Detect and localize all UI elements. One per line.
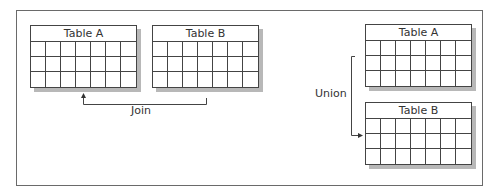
union-arrow-icon [358, 133, 363, 138]
join-label: Join [131, 104, 151, 117]
union-connector [352, 57, 360, 136]
connectors [0, 0, 498, 196]
join-arrow-icon [81, 93, 86, 98]
union-label: Union [315, 87, 347, 100]
